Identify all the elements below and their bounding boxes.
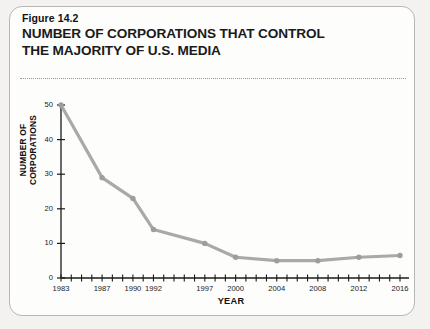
data-point-marker xyxy=(274,258,279,263)
x-axis-tick-label: 2016 xyxy=(382,284,418,293)
data-point-marker xyxy=(202,241,207,246)
x-axis-tick-label: 2000 xyxy=(218,284,254,293)
x-axis-tick-label: 2012 xyxy=(341,284,377,293)
data-point-marker xyxy=(130,196,135,201)
x-axis-tick-label: 2004 xyxy=(259,284,295,293)
page-background: Figure 14.2 NUMBER OF CORPORATIONS THAT … xyxy=(0,0,430,329)
data-point-marker xyxy=(233,255,238,260)
y-axis-tick-label: 0 xyxy=(21,273,53,282)
data-point-marker xyxy=(356,255,361,260)
data-point-marker xyxy=(151,227,156,232)
y-axis-tick-label: 20 xyxy=(21,204,53,213)
line-chart: NUMBER OF CORPORATIONS YEAR 010203040501… xyxy=(0,0,430,329)
x-axis-tick-label: 1983 xyxy=(43,284,79,293)
x-axis-tick-label: 1992 xyxy=(135,284,171,293)
y-axis-tick-label: 30 xyxy=(21,169,53,178)
data-point-marker xyxy=(58,102,63,107)
x-axis-tick-label: 2008 xyxy=(300,284,336,293)
data-point-marker xyxy=(99,175,104,180)
x-axis-title: YEAR xyxy=(61,296,401,306)
y-axis-tick-label: 10 xyxy=(21,238,53,247)
data-series-line xyxy=(61,105,400,261)
y-axis-tick-label: 40 xyxy=(21,135,53,144)
data-point-marker xyxy=(315,258,320,263)
data-point-marker xyxy=(397,253,402,258)
y-axis-tick-label: 50 xyxy=(21,100,53,109)
chart-canvas xyxy=(0,0,430,329)
